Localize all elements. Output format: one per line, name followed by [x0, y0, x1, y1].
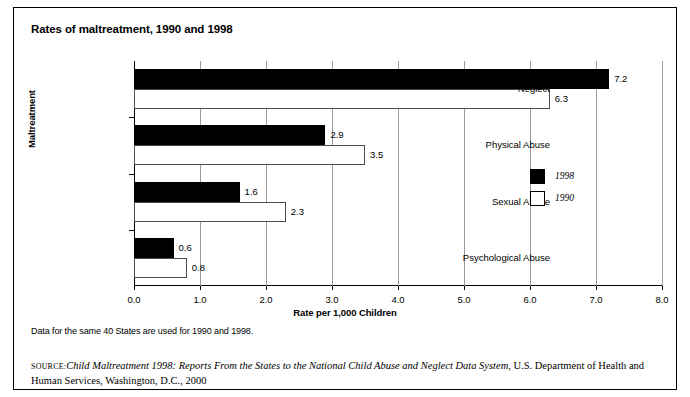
x-tick-label: 8.0 [642, 295, 682, 305]
category-label: Physical Abuse [486, 140, 550, 150]
bar-1998 [134, 182, 240, 202]
bar-value-1990: 0.8 [192, 263, 205, 273]
bar-1998 [134, 238, 174, 258]
x-tick-mark [398, 286, 399, 290]
bar-1990 [134, 145, 365, 165]
x-tick-mark [662, 286, 663, 290]
legend-swatch-1998 [530, 169, 545, 184]
category-label: Psychological Abuse [463, 253, 550, 263]
legend-swatch-1990 [530, 191, 545, 206]
bar-value-1990: 2.3 [291, 207, 304, 217]
x-tick-mark [332, 286, 333, 290]
plot-area: 7.26.32.93.51.62.30.60.8 [134, 61, 662, 286]
legend-label-1998: 1998 [555, 171, 574, 181]
x-tick-label: 3.0 [312, 295, 352, 305]
x-tick-mark [200, 286, 201, 290]
source-prefix: SOURCE: [31, 362, 66, 371]
bar-value-1998: 1.6 [245, 187, 258, 197]
y-tick-mark [129, 230, 134, 231]
legend-item-1990: 1990 [530, 187, 574, 209]
x-tick-label: 0.0 [114, 295, 154, 305]
y-tick-mark [129, 117, 134, 118]
x-tick-mark [530, 286, 531, 290]
data-note: Data for the same 40 States are used for… [31, 326, 253, 336]
category-label: Neglect [518, 84, 550, 94]
x-tick-label: 1.0 [180, 295, 220, 305]
chart-title: Rates of maltreatment, 1990 and 1998 [31, 23, 233, 35]
y-axis-title: Maltreatment [26, 90, 37, 148]
x-tick-label: 2.0 [246, 295, 286, 305]
source-title: Child Maltreatment 1998: Reports From th… [66, 360, 508, 371]
bar-value-1990: 3.5 [370, 150, 383, 160]
x-tick-mark [596, 286, 597, 290]
bar-1990 [134, 258, 187, 278]
legend-label-1990: 1990 [555, 193, 574, 203]
chart-legend: 1998 1990 [530, 165, 574, 209]
x-tick-mark [134, 286, 135, 290]
x-axis-title: Rate per 1,000 Children [14, 307, 676, 318]
x-tick-label: 6.0 [510, 295, 550, 305]
figure-panel: Rates of maltreatment, 1990 and 1998 Mal… [13, 7, 677, 390]
x-tick-label: 5.0 [444, 295, 484, 305]
x-tick-label: 4.0 [378, 295, 418, 305]
source-note: SOURCE:Child Maltreatment 1998: Reports … [31, 358, 663, 388]
bar-value-1998: 0.6 [179, 243, 192, 253]
gridline [662, 61, 663, 286]
bar-1990 [134, 202, 286, 222]
x-tick-mark [464, 286, 465, 290]
bar-value-1990: 6.3 [555, 94, 568, 104]
bar-value-1998: 2.9 [330, 130, 343, 140]
y-tick-mark [129, 174, 134, 175]
bar-1998 [134, 125, 325, 145]
gridline [596, 61, 597, 286]
x-tick-label: 7.0 [576, 295, 616, 305]
bar-value-1998: 7.2 [614, 74, 627, 84]
bar-1990 [134, 89, 550, 109]
x-tick-mark [266, 286, 267, 290]
legend-item-1998: 1998 [530, 165, 574, 187]
